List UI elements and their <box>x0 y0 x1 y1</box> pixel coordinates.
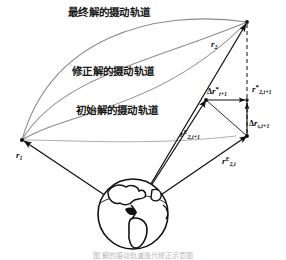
node-dot-star <box>245 98 248 101</box>
vector-label-delta-r-s-ip1: Δrs,i+1 <box>249 119 269 129</box>
vector-label-r1: r1 <box>16 151 23 161</box>
node-dot-apex <box>245 20 249 24</box>
vector-label-r2-sub: 2 <box>215 44 218 50</box>
node-dot-origin <box>20 138 24 142</box>
vector-label-r2E-i-sub: 2,i <box>230 161 236 167</box>
orbit-label-initial: 初始解的摄动轨道 <box>76 105 158 116</box>
vector-label-delta-r-s-ip1-sub: s,i+1 <box>258 123 270 129</box>
earth-globe-icon <box>98 179 168 249</box>
vector-label-r2-star-ip1-sub: 2,i+1 <box>259 89 272 95</box>
vector-label-r2E-ip1-sub: 2,i+1 <box>188 134 201 140</box>
vector-label-delta-r-star-ip1-sub: i+1 <box>219 91 227 97</box>
vector-label-r2-star-ip1: r*2,i+1 <box>252 84 272 95</box>
node-dot-intermediate <box>204 98 208 102</box>
connector-node-to-lower-node <box>206 100 247 136</box>
vector-label-r2E-ip1: rE2,i+1 <box>180 129 200 140</box>
figure-caption: 图 解的摄动轨道迭代修正示意图 <box>0 250 286 260</box>
orbit-arc-lower-extension <box>22 136 236 142</box>
vector-label-r2: r2 <box>211 40 218 50</box>
node-dot-lower-right <box>245 134 249 138</box>
orbit-label-corrected: 修正解的摄动轨道 <box>72 66 154 77</box>
vector-label-r1-sub: 1 <box>20 155 23 161</box>
orbit-label-final: 最终解的摄动轨道 <box>68 7 150 18</box>
vector-label-delta-r-star-ip1: Δr*i+1 <box>207 86 227 97</box>
delta-vector-group <box>206 100 247 136</box>
vector-label-r2E-i: rE2,i <box>222 156 236 167</box>
